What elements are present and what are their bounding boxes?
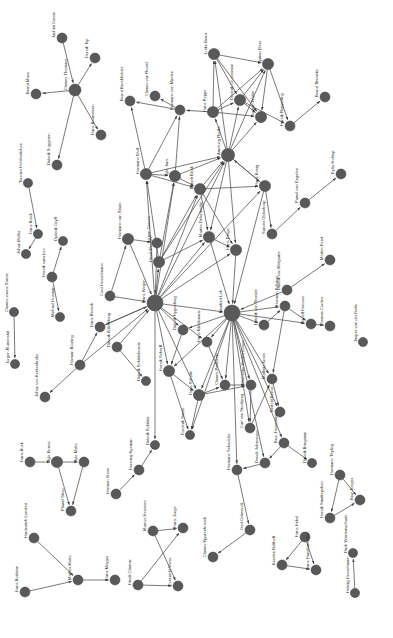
graph-node[interactable] bbox=[260, 458, 270, 468]
graph-node[interactable] bbox=[51, 456, 62, 467]
graph-node[interactable] bbox=[262, 58, 273, 69]
graph-node[interactable] bbox=[306, 319, 316, 329]
graph-node[interactable] bbox=[40, 392, 50, 402]
graph-node-label: Hermann van Stade bbox=[117, 202, 122, 239]
graph-node[interactable] bbox=[125, 96, 135, 106]
graph-node[interactable] bbox=[21, 249, 30, 258]
graph-node-label: Carl von Stockjeng bbox=[239, 393, 244, 428]
graph-node[interactable] bbox=[140, 168, 151, 179]
graph-node[interactable] bbox=[277, 560, 287, 570]
graph-node[interactable] bbox=[300, 198, 310, 208]
graph-node[interactable] bbox=[335, 470, 345, 480]
graph-node[interactable] bbox=[311, 565, 321, 575]
graph-node[interactable] bbox=[350, 588, 359, 597]
graph-node[interactable] bbox=[153, 256, 164, 267]
graph-node-label: Johan von Kerkenbroke bbox=[34, 353, 39, 397]
graph-node[interactable] bbox=[147, 295, 163, 311]
graph-node[interactable] bbox=[325, 513, 335, 523]
graph-node[interactable] bbox=[134, 465, 144, 475]
graph-node[interactable] bbox=[133, 580, 143, 590]
graph-node[interactable] bbox=[112, 342, 122, 352]
graph-node[interactable] bbox=[47, 272, 57, 282]
graph-node-label: Bertold Bense bbox=[269, 386, 274, 412]
graph-node[interactable] bbox=[325, 255, 335, 265]
graph-node[interactable] bbox=[69, 84, 81, 96]
graph-node[interactable] bbox=[150, 91, 160, 101]
graph-node[interactable] bbox=[234, 94, 245, 105]
graph-node[interactable] bbox=[25, 457, 35, 467]
graph-node[interactable] bbox=[307, 458, 316, 467]
graph-node[interactable] bbox=[163, 365, 174, 376]
graph-node[interactable] bbox=[267, 374, 277, 384]
graph-node[interactable] bbox=[224, 305, 240, 321]
graph-node[interactable] bbox=[169, 170, 180, 181]
graph-node[interactable] bbox=[208, 48, 219, 59]
graph-node[interactable] bbox=[267, 229, 277, 239]
graph-node[interactable] bbox=[150, 440, 159, 449]
graph-node[interactable] bbox=[208, 552, 218, 562]
graph-node[interactable] bbox=[221, 148, 234, 161]
graph-node[interactable] bbox=[73, 575, 83, 585]
graph-node[interactable] bbox=[259, 320, 269, 330]
graph-node[interactable] bbox=[320, 92, 330, 102]
graph-node[interactable] bbox=[57, 33, 67, 43]
graph-node[interactable] bbox=[95, 322, 105, 332]
graph-node-label: Henrik Top bbox=[84, 38, 89, 58]
graph-node[interactable] bbox=[75, 360, 85, 370]
graph-node[interactable] bbox=[202, 337, 212, 347]
graph-node-label: Jachim Garcio bbox=[51, 11, 56, 38]
graph-node[interactable] bbox=[9, 307, 18, 316]
graph-node[interactable] bbox=[279, 438, 289, 448]
graph-node[interactable] bbox=[255, 111, 266, 122]
graph-node[interactable] bbox=[194, 183, 205, 194]
graph-node[interactable] bbox=[358, 337, 367, 346]
graph-edge bbox=[106, 306, 148, 324]
graph-node[interactable] bbox=[178, 523, 188, 533]
graph-node[interactable] bbox=[325, 321, 335, 331]
graph-node[interactable] bbox=[33, 229, 42, 238]
graph-node[interactable] bbox=[148, 526, 158, 536]
graph-node[interactable] bbox=[79, 457, 89, 467]
graph-node-label: Hans Konig bbox=[254, 164, 259, 186]
graph-node[interactable] bbox=[280, 301, 290, 311]
graph-node[interactable] bbox=[245, 525, 255, 535]
graph-node[interactable] bbox=[230, 244, 241, 255]
graph-node-label: Diderik Schilder bbox=[145, 416, 150, 445]
graph-node-label: Diderik Hygenberg bbox=[172, 295, 177, 330]
graph-node[interactable] bbox=[66, 506, 76, 516]
graph-node[interactable] bbox=[282, 285, 292, 295]
graph-node[interactable] bbox=[52, 160, 62, 170]
graph-node[interactable] bbox=[10, 359, 19, 368]
graph-node[interactable] bbox=[105, 291, 115, 301]
graph-node[interactable] bbox=[246, 380, 256, 390]
graph-node[interactable] bbox=[232, 465, 242, 475]
graph-node[interactable] bbox=[29, 533, 39, 543]
graph-node[interactable] bbox=[175, 105, 185, 115]
graph-node[interactable] bbox=[96, 130, 106, 140]
graph-node[interactable] bbox=[185, 430, 194, 439]
graph-node[interactable] bbox=[111, 489, 121, 499]
graph-edge bbox=[175, 116, 179, 170]
graph-node[interactable] bbox=[152, 238, 162, 248]
graph-node[interactable] bbox=[220, 380, 230, 390]
graph-node[interactable] bbox=[203, 231, 214, 242]
graph-node[interactable] bbox=[336, 169, 346, 179]
graph-node[interactable] bbox=[20, 587, 30, 597]
graph-node-label: Hermann Thyling bbox=[329, 443, 334, 475]
graph-node[interactable] bbox=[348, 548, 357, 557]
graph-node[interactable] bbox=[173, 581, 183, 591]
graph-node[interactable] bbox=[31, 89, 41, 99]
graph-node[interactable] bbox=[285, 121, 295, 131]
graph-node[interactable] bbox=[90, 53, 100, 63]
graph-node[interactable] bbox=[193, 389, 204, 400]
graph-node[interactable] bbox=[23, 178, 32, 187]
graph-node[interactable] bbox=[207, 106, 218, 117]
graph-node[interactable] bbox=[141, 376, 150, 385]
graph-node[interactable] bbox=[178, 325, 188, 335]
graph-node[interactable] bbox=[355, 495, 365, 505]
graph-node[interactable] bbox=[122, 233, 133, 244]
graph-node[interactable] bbox=[259, 180, 270, 191]
graph-node[interactable] bbox=[58, 236, 67, 245]
graph-node[interactable] bbox=[110, 575, 120, 585]
graph-node[interactable] bbox=[55, 312, 64, 321]
